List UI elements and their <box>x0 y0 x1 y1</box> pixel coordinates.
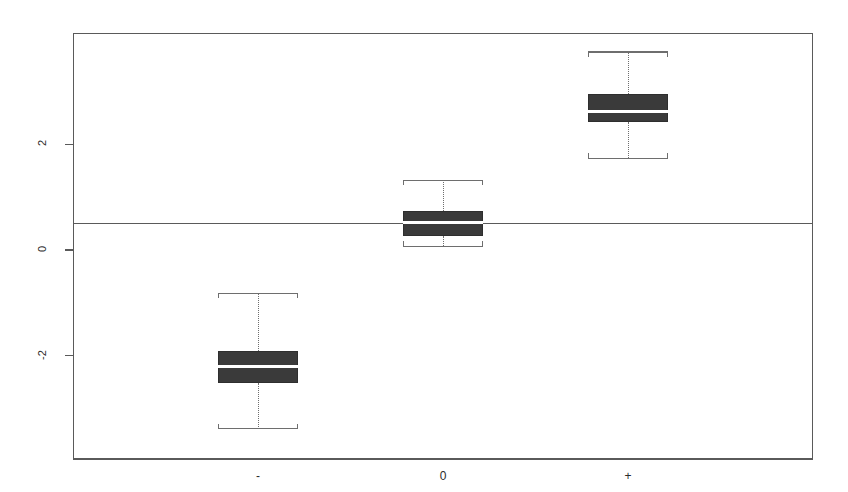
whisker-cap-upper-serif-left <box>218 293 219 298</box>
whisker-cap-lower-serif-right <box>667 153 668 158</box>
whisker-cap-lower-serif-right <box>297 424 298 429</box>
y-tick-mark-1 <box>65 249 73 250</box>
whisker-upper <box>258 293 259 350</box>
y-tick-label-2: -2 <box>36 340 48 370</box>
whisker-cap-lower-serif-left <box>218 424 219 429</box>
y-tick-label-1: 0 <box>36 234 48 264</box>
whisker-cap-lower-serif-left <box>403 241 404 246</box>
median-line <box>403 221 483 224</box>
whisker-cap-upper-serif-left <box>588 52 589 57</box>
whisker-cap-upper-serif-right <box>297 293 298 298</box>
median-line <box>218 365 298 368</box>
whisker-cap-lower-serif-right <box>482 241 483 246</box>
y-axis-line <box>73 33 74 459</box>
median-line <box>588 110 668 113</box>
whisker-cap-upper <box>218 293 298 294</box>
whisker-cap-lower <box>218 428 298 429</box>
whisker-cap-lower <box>403 246 483 247</box>
x-tick-label-minus: - <box>238 469 278 483</box>
y-tick-mark-2 <box>65 355 73 356</box>
y-tick-mark-0 <box>65 144 73 145</box>
box-rect <box>588 94 668 122</box>
whisker-lower <box>443 236 444 247</box>
whisker-cap-lower-serif-left <box>588 153 589 158</box>
whisker-cap-upper-serif-right <box>482 180 483 185</box>
whisker-upper <box>628 52 629 94</box>
x-tick-label-plus: + <box>608 469 648 483</box>
y-tick-label-0: 2 <box>36 128 48 158</box>
whisker-lower <box>258 383 259 429</box>
boxplot-figure: 2 0 -2 - 0 + <box>0 0 848 492</box>
x-tick-label-zero: 0 <box>423 469 463 483</box>
whisker-upper <box>443 180 444 211</box>
whisker-cap-upper-serif-left <box>403 180 404 185</box>
whisker-cap-upper <box>588 51 668 52</box>
whisker-lower <box>628 122 629 159</box>
x-axis-line <box>73 459 813 460</box>
whisker-cap-upper <box>403 180 483 181</box>
whisker-cap-lower <box>588 158 668 159</box>
whisker-cap-upper-serif-right <box>667 52 668 57</box>
